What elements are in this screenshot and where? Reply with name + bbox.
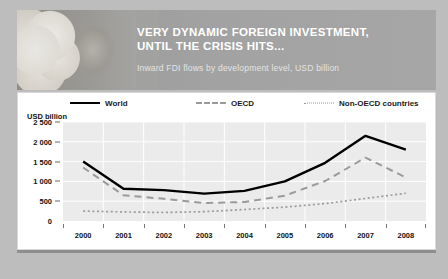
x-axis-tick-label: 2003: [196, 231, 213, 240]
y-axis-tick-label: 2 000: [33, 137, 52, 146]
x-axis-tick-label: 2004: [236, 231, 253, 240]
y-axis-tick-mark: [55, 141, 60, 142]
chart-svg: [63, 122, 426, 221]
chart-card: WorldOECDNon-OECD countries USD billion …: [17, 92, 436, 250]
x-axis-tick-label: 2008: [397, 231, 414, 240]
x-axis-tick-label: 2006: [317, 231, 334, 240]
banner-subtitle: Inward FDI flows by development level, U…: [137, 63, 432, 73]
legend-swatch-dotted-icon: [304, 99, 334, 107]
x-axis-tick-mark: [63, 224, 64, 228]
x-axis-tick-mark: [345, 224, 346, 228]
x-axis-tick-mark: [425, 224, 426, 228]
series-line-oecd: [83, 158, 406, 203]
x-axis-tick-label: 2005: [276, 231, 293, 240]
x-axis-tick-label: 2000: [75, 231, 92, 240]
y-axis-labels: 05001 0001 5002 0002 500: [18, 117, 60, 227]
y-axis-tick-label: 2 500: [33, 118, 52, 127]
legend-label: World: [105, 99, 128, 108]
legend-item-oecd[interactable]: OECD: [196, 96, 254, 110]
legend-item-non-oecd-countries[interactable]: Non-OECD countries: [304, 96, 419, 110]
legend-swatch-dashed-icon: [196, 99, 226, 107]
x-axis-tick-mark: [144, 224, 145, 228]
legend-swatch-solid-icon: [70, 99, 100, 107]
y-axis-tick-mark: [55, 122, 60, 123]
x-axis-tick-mark: [305, 224, 306, 228]
page-root: VERY DYNAMIC FOREIGN INVESTMENT, UNTIL T…: [0, 0, 448, 279]
legend-label: Non-OECD countries: [339, 99, 419, 108]
y-axis-tick-label: 1 500: [33, 157, 52, 166]
banner-title-line2: UNTIL THE CRISIS HITS...: [137, 39, 427, 53]
series-line-world: [83, 136, 406, 194]
header-banner: VERY DYNAMIC FOREIGN INVESTMENT, UNTIL T…: [17, 10, 436, 90]
chart-legend: WorldOECDNon-OECD countries: [18, 96, 437, 112]
x-axis-tick-mark: [184, 224, 185, 228]
x-axis-tick-label: 2002: [155, 231, 172, 240]
banner-title: VERY DYNAMIC FOREIGN INVESTMENT, UNTIL T…: [137, 25, 427, 53]
x-axis-tick-mark: [224, 224, 225, 228]
y-axis-tick-label: 500: [39, 197, 52, 206]
y-axis-tick-label: 0: [48, 217, 52, 226]
y-axis-tick-mark: [55, 161, 60, 162]
x-axis-tick-label: 2007: [357, 231, 374, 240]
y-axis-tick-mark: [55, 181, 60, 182]
x-axis-labels: 200020012002200320042005200620072008: [63, 224, 426, 244]
banner-title-line1: VERY DYNAMIC FOREIGN INVESTMENT,: [137, 25, 427, 39]
x-axis-tick-mark: [103, 224, 104, 228]
y-axis-tick-label: 1 000: [33, 177, 52, 186]
legend-label: OECD: [231, 99, 254, 108]
y-axis-tick-mark: [55, 201, 60, 202]
plot-area: [63, 122, 426, 221]
card-bottom-shadow: [17, 250, 436, 253]
x-axis-tick-mark: [265, 224, 266, 228]
x-axis-tick-mark: [386, 224, 387, 228]
x-axis-tick-label: 2001: [115, 231, 132, 240]
legend-item-world[interactable]: World: [70, 96, 128, 110]
